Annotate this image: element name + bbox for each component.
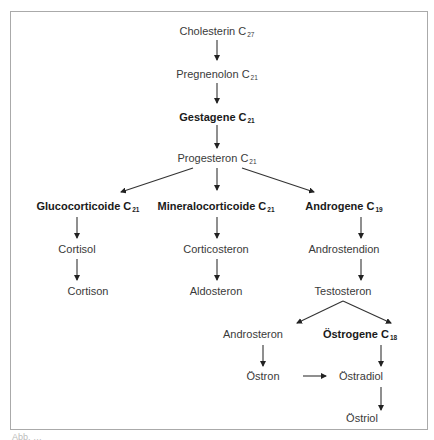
arrow-progesteron-androgene bbox=[242, 168, 314, 192]
node-androstendion: Androstendion bbox=[309, 242, 380, 256]
node-gestagene: Gestagene C21 bbox=[179, 110, 254, 128]
arrow-testosteron-oestrogene bbox=[343, 301, 391, 323]
node-androsteron: Androsteron bbox=[223, 327, 283, 341]
node-cholesterin: Cholesterin C27 bbox=[180, 24, 255, 42]
arrow-testosteron-androsteron bbox=[297, 301, 343, 323]
node-mineralocorticoide: Mineralocorticoide C21 bbox=[157, 199, 274, 217]
node-oestrogene: Östrogene C18 bbox=[323, 327, 397, 345]
figure-caption: Abb. … bbox=[12, 432, 42, 440]
node-cortisol: Cortisol bbox=[58, 242, 95, 256]
node-testosteron: Testosteron bbox=[315, 284, 372, 298]
arrow-progesteron-glucocorticoide bbox=[121, 168, 193, 192]
node-aldosteron: Aldosteron bbox=[190, 284, 243, 298]
node-oestradiol: Östradiol bbox=[339, 369, 383, 383]
node-glucocorticoide: Glucocorticoide C21 bbox=[37, 199, 140, 217]
node-pregnenolon: Pregnenolon C21 bbox=[176, 67, 258, 85]
node-progesteron: Progesteron C21 bbox=[177, 151, 256, 169]
node-cortison: Cortison bbox=[68, 284, 109, 298]
node-androgene: Androgene C19 bbox=[305, 199, 382, 217]
node-oestron: Östron bbox=[246, 369, 279, 383]
node-oestriol: Östriol bbox=[346, 411, 378, 425]
node-corticosteron: Corticosteron bbox=[183, 242, 248, 256]
